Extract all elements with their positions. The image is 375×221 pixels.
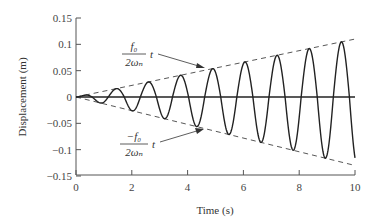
lower-annotation-numerator: −f₀	[127, 130, 141, 142]
y-tick-label: 0.1	[58, 38, 72, 50]
response-curve	[76, 42, 355, 158]
chart-canvas: 0.150.10.050−0.05−0.1−0.15 0246810 f₀ 2ω…	[0, 0, 375, 221]
upper-annotation-t: t	[150, 48, 154, 60]
x-tick-label: 8	[296, 181, 302, 193]
lower-annotation-arrow	[160, 130, 200, 142]
x-tick-label: 0	[73, 181, 79, 193]
y-tick-label: 0	[67, 91, 73, 103]
upper-annotation-denominator: 2ωₙ	[125, 56, 143, 68]
lower-annotation-t: t	[152, 138, 156, 150]
x-axis-label: Time (s)	[196, 204, 234, 217]
x-tick-label: 10	[350, 181, 362, 193]
x-tick-label: 4	[185, 181, 191, 193]
x-tick-label: 2	[129, 181, 135, 193]
y-tick-label: −0.15	[47, 170, 73, 182]
y-axis-label: Displacement (m)	[16, 57, 29, 136]
upper-arrowhead-icon	[196, 63, 205, 68]
lower-envelope	[76, 97, 355, 165]
y-tick-label: −0.05	[47, 117, 73, 129]
lower-annotation-denominator: 2ωₙ	[125, 146, 143, 158]
upper-annotation-numerator: f₀	[131, 40, 138, 52]
upper-annotation-arrow	[158, 54, 202, 67]
y-tick-label: 0.15	[53, 12, 73, 24]
y-tick-label: −0.1	[52, 144, 72, 156]
x-ticks: 0246810	[73, 170, 361, 193]
y-tick-label: 0.05	[53, 65, 73, 77]
x-tick-label: 6	[241, 181, 247, 193]
lower-arrowhead-icon	[195, 128, 204, 134]
